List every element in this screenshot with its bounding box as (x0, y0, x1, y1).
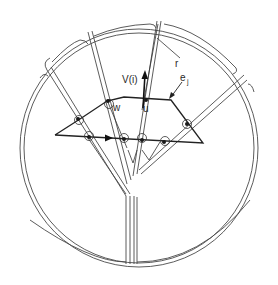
point-u (144, 98, 148, 102)
label-velocity: V(i) (122, 74, 138, 85)
label-edge-subscript: j (186, 78, 189, 86)
edge-pointer-arrow (169, 82, 182, 99)
label-point-w: w (112, 102, 121, 113)
point-left-upper (75, 116, 84, 125)
direction-arrow-icon (105, 135, 113, 142)
outer-boundary (20, 29, 258, 267)
label-ray: r (175, 58, 179, 69)
label-point-u: u (143, 103, 149, 114)
diagram: V(i) r e j w u (0, 0, 278, 285)
label-edge: e (180, 72, 186, 83)
